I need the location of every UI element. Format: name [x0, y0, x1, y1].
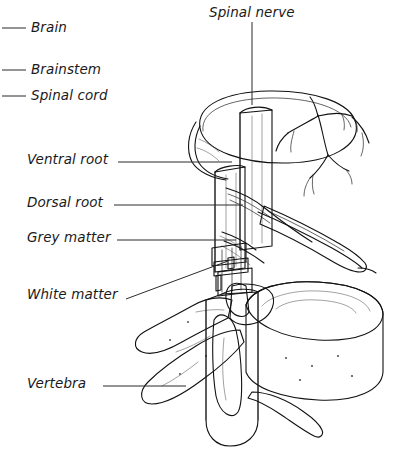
spinal-cord-canal	[206, 284, 323, 446]
label-brain: Brain	[31, 21, 67, 35]
figure-page: Spinal nerve Brain Brainstem Spinal cord…	[0, 0, 394, 468]
label-spinal-nerve: Spinal nerve	[209, 6, 295, 20]
white-matter-leader	[126, 261, 228, 299]
spinal-nerve-branches	[276, 97, 369, 196]
spinal-cord-column	[215, 107, 272, 272]
label-white-matter: White matter	[27, 288, 118, 302]
label-vertebra: Vertebra	[27, 377, 86, 391]
label-spinal-cord: Spinal cord	[31, 89, 108, 103]
label-ventral-root: Ventral root	[27, 153, 108, 167]
dura-mater-outline	[200, 91, 357, 163]
label-brainstem: Brainstem	[31, 63, 101, 77]
label-grey-matter: Grey matter	[27, 231, 111, 245]
nerve-roots	[220, 188, 376, 273]
vertebral-body	[246, 282, 383, 401]
label-dorsal-root: Dorsal root	[27, 196, 103, 210]
